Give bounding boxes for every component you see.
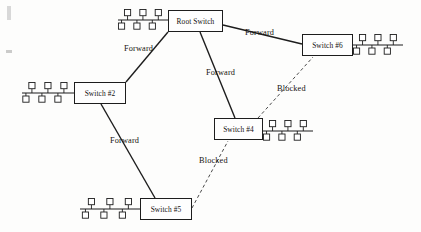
host-computer-icon[interactable] <box>45 83 51 89</box>
switch-node-root[interactable]: Root Switch <box>168 10 223 32</box>
link-state-label-switch5-switch4: Blocked <box>199 156 228 165</box>
scan-artifact-bottom <box>6 50 12 53</box>
link-switch2-switch5[interactable] <box>101 104 155 198</box>
host-computer-icon[interactable] <box>125 199 131 205</box>
host-computer-icon[interactable] <box>285 121 291 127</box>
host-computer-icon[interactable] <box>29 83 35 89</box>
host-computer-icon[interactable] <box>118 23 124 29</box>
switch-node-switch2[interactable]: Switch #2 <box>74 82 126 104</box>
host-computer-icon[interactable] <box>82 212 88 218</box>
switch-label: Root Switch <box>177 17 215 26</box>
host-computer-icon[interactable] <box>55 96 61 102</box>
host-computer-icon[interactable] <box>39 96 45 102</box>
link-root-switch2[interactable] <box>126 32 168 82</box>
host-computer-icon[interactable] <box>353 48 359 54</box>
link-state-label-root-switch6: Forward <box>245 28 274 37</box>
host-computer-icon[interactable] <box>359 35 365 41</box>
link-state-label-switch4-switch6: Blocked <box>277 84 306 93</box>
switch-node-switch6[interactable]: Switch #6 <box>302 34 353 56</box>
switch-label: Switch #6 <box>312 41 343 50</box>
host-computer-icon[interactable] <box>23 96 29 102</box>
topology-graphics <box>0 0 421 232</box>
switch-label: Switch #2 <box>85 89 116 98</box>
host-computer-icon[interactable] <box>61 83 67 89</box>
scan-artifact-top <box>7 6 11 20</box>
host-computer-icon[interactable] <box>119 212 125 218</box>
host-computer-icon[interactable] <box>149 23 155 29</box>
host-computer-icon[interactable] <box>300 121 306 127</box>
host-computer-icon[interactable] <box>88 199 94 205</box>
host-computer-icon[interactable] <box>107 199 113 205</box>
host-computer-icon[interactable] <box>134 23 140 29</box>
switch-label: Switch #4 <box>223 125 254 134</box>
host-computer-icon[interactable] <box>140 10 146 16</box>
host-computer-icon[interactable] <box>101 212 107 218</box>
diagram-canvas: Root SwitchSwitch #2Switch #6Switch #4Sw… <box>0 0 421 232</box>
switch-label: Switch #5 <box>151 205 182 214</box>
link-switch5-switch4[interactable] <box>192 141 228 208</box>
host-computer-icon[interactable] <box>263 134 269 140</box>
switch-node-switch4[interactable]: Switch #4 <box>214 118 263 140</box>
switch-node-switch5[interactable]: Switch #5 <box>140 198 192 220</box>
host-computer-icon[interactable] <box>124 10 130 16</box>
host-computer-icon[interactable] <box>269 121 275 127</box>
host-computer-icon[interactable] <box>390 35 396 41</box>
host-computer-icon[interactable] <box>279 134 285 140</box>
host-computer-icon[interactable] <box>294 134 300 140</box>
host-computer-icon[interactable] <box>375 35 381 41</box>
link-state-label-root-switch4: Forward <box>206 68 235 77</box>
host-computer-icon[interactable] <box>384 48 390 54</box>
host-computer-icon[interactable] <box>369 48 375 54</box>
link-state-label-root-switch2: Forward <box>124 44 153 53</box>
host-computer-icon[interactable] <box>155 10 161 16</box>
link-state-label-switch2-switch5: Forward <box>110 136 139 145</box>
